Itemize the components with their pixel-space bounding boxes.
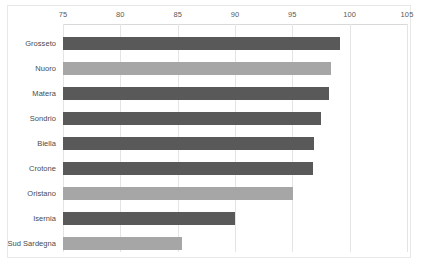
bar-row[interactable]: Oristano [63, 181, 407, 206]
bar-row[interactable]: Sondrio [63, 106, 407, 131]
bar-row[interactable]: Biella [63, 131, 407, 156]
category-label: Sondrio [30, 114, 56, 123]
x-tick-label: 85 [173, 10, 182, 19]
x-tick-label: 95 [288, 10, 297, 19]
category-label: Crotone [29, 164, 56, 173]
bar-oristano[interactable] [63, 187, 293, 200]
category-label: Biella [37, 139, 56, 148]
category-label: Matera [32, 89, 56, 98]
category-label: Isernia [33, 214, 56, 223]
bar-row[interactable]: Sud Sardegna [63, 231, 407, 256]
bar-nuoro[interactable] [63, 62, 331, 75]
bar-sud-sardegna[interactable] [63, 237, 182, 250]
bar-row[interactable]: Isernia [63, 206, 407, 231]
bar-sondrio[interactable] [63, 112, 321, 125]
plot-area: GrossetoNuoroMateraSondrioBiellaCrotoneO… [63, 24, 407, 252]
x-tick-label: 80 [116, 10, 125, 19]
category-label: Nuoro [35, 64, 56, 73]
x-tick-label: 105 [401, 10, 414, 19]
bar-row[interactable]: Nuoro [63, 56, 407, 81]
bar-crotone[interactable] [63, 162, 313, 175]
x-axis-tick-labels: 7580859095100105 [8, 6, 412, 24]
bar-matera[interactable] [63, 87, 329, 100]
category-label: Grosseto [25, 39, 56, 48]
x-tick-label: 75 [59, 10, 68, 19]
bar-row[interactable]: Crotone [63, 156, 407, 181]
gridline-vertical [407, 24, 408, 252]
bar-row[interactable]: Matera [63, 81, 407, 106]
x-tick-label: 90 [231, 10, 240, 19]
bar-biella[interactable] [63, 137, 314, 150]
category-label: Sud Sardegna [7, 239, 56, 248]
bar-isernia[interactable] [63, 212, 235, 225]
bar-grosseto[interactable] [63, 37, 340, 50]
chart-container: 7580859095100105 GrossetoNuoroMateraSond… [7, 5, 411, 258]
bar-row[interactable]: Grosseto [63, 31, 407, 56]
x-tick-label: 100 [343, 10, 356, 19]
category-label: Oristano [27, 189, 56, 198]
